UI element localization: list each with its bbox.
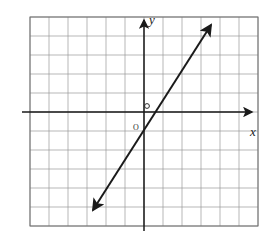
y-axis-label: y — [149, 13, 155, 26]
coordinate-plane-figure: y x O — [0, 0, 269, 236]
x-axis-label: x — [250, 125, 256, 138]
graphed-line — [93, 25, 211, 210]
origin-label: O — [133, 124, 139, 132]
x-intercept-marker-icon — [145, 104, 150, 109]
coordinate-plane-svg — [0, 0, 269, 236]
